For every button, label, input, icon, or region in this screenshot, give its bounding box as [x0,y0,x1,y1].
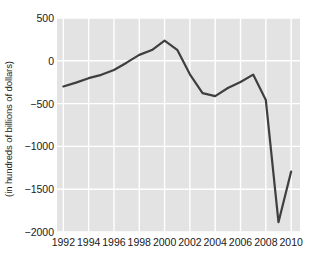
y-tick-label: 0 [8,55,54,66]
x-tick-label: 1996 [102,236,125,248]
x-tick-label: 2002 [178,236,201,248]
plot-area [57,18,300,232]
x-axis-tick-labels: 1992199419961998200020022004200620082010 [0,236,313,254]
x-tick-label: 2006 [229,236,252,248]
line-chart-svg [57,18,300,232]
y-tick-label: −1500 [8,184,54,195]
x-tick-label: 2008 [254,236,277,248]
x-tick-label: 1994 [77,236,100,248]
y-tick-label: −500 [8,98,54,109]
y-tick-label: −1000 [8,141,54,152]
y-axis-tick-labels: 5000−500−1000−1500−2000 [8,0,54,258]
x-tick-label: 2010 [279,236,302,248]
x-tick-label: 2004 [204,236,227,248]
x-tick-label: 2000 [153,236,176,248]
y-tick-label: 500 [8,13,54,24]
x-tick-label: 1998 [128,236,151,248]
x-tick-label: 1992 [52,236,75,248]
data-series-line [63,41,291,223]
chart-figure: (in hundreds of billions of dollars) 500… [0,0,313,258]
